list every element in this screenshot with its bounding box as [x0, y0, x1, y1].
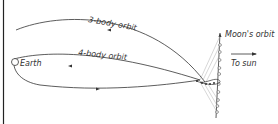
label-earth: Earth	[20, 59, 41, 68]
orbit-diagram-svg: 3-body orbit 4-body orbit Earth Moon's o…	[0, 0, 278, 124]
label-moon-orbit: Moon's orbit	[225, 30, 275, 39]
label-three-body-orbit: 3-body orbit	[88, 15, 139, 33]
to-sun-arrow-head	[252, 52, 257, 55]
earth-circle	[12, 59, 19, 66]
orbit-diagram: 3-body orbit 4-body orbit Earth Moon's o…	[0, 0, 278, 124]
four-body-direction-arrow-top	[68, 65, 72, 68]
label-to-sun: To sun	[231, 59, 257, 68]
three-body-direction-arrow	[107, 29, 111, 32]
label-four-body-orbit: 4-body orbit	[78, 48, 128, 62]
